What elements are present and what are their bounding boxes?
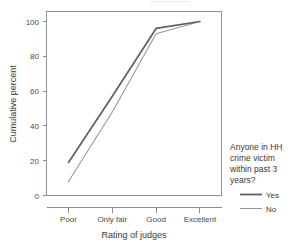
y-axis-title: Cumulative percent (8, 65, 18, 143)
legend-item-no[interactable]: No (240, 205, 277, 214)
y-tick-label: 40 (30, 122, 39, 131)
legend-label-no: No (266, 205, 277, 214)
legend-title-line: crime victim (230, 153, 275, 163)
y-tick-label: 60 (30, 87, 39, 96)
x-axis-title: Rating of judges (101, 230, 167, 240)
x-tick-label: Poor (60, 215, 77, 224)
legend-item-yes[interactable]: Yes (240, 191, 279, 200)
legend-title-line: within past 3 (229, 164, 278, 174)
x-tick-label: Only fair (97, 215, 127, 224)
legend: Anyone in HH crime victim within past 3 … (229, 142, 282, 214)
legend-title-line: Anyone in HH (230, 142, 282, 152)
legend-label-yes: Yes (266, 191, 279, 200)
x-tick-label: Good (146, 215, 166, 224)
plot-frame (47, 12, 222, 196)
y-tick-label: 0 (35, 192, 40, 201)
y-tick-label: 80 (30, 52, 39, 61)
x-tick-label: Excellent (184, 215, 217, 224)
series-line-no (69, 22, 200, 182)
y-axis: 100 80 60 40 20 0 (26, 18, 47, 201)
scan-artifact (150, 1, 190, 2)
y-tick-label: 20 (30, 157, 39, 166)
legend-title-line: years? (230, 175, 256, 185)
chart-figure: 100 80 60 40 20 0 Cumulative percent Poo… (0, 0, 289, 249)
x-axis: Poor Only fair Good Excellent (60, 208, 217, 225)
y-tick-label: 100 (26, 18, 40, 27)
series-line-yes (69, 22, 200, 163)
cumulative-percent-line-chart: 100 80 60 40 20 0 Cumulative percent Poo… (0, 0, 289, 249)
